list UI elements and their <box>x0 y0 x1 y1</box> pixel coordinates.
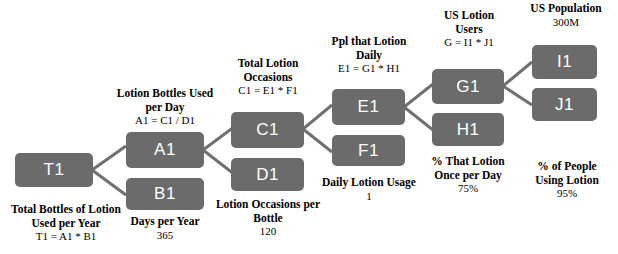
caption-c1-formula: C1 = E1 * F1 <box>221 84 315 97</box>
edge-g1-i1 <box>503 62 532 86</box>
edge-e1-g1 <box>404 84 433 107</box>
caption-b1-value: 365 <box>118 229 212 242</box>
edge-c1-e1 <box>303 105 332 129</box>
caption-g1: US Lotion Users G = I1 * J1 <box>430 9 508 49</box>
node-j1-label: J1 <box>555 95 574 115</box>
node-c1-label: C1 <box>256 120 279 140</box>
caption-c1: Total Lotion Occasions C1 = E1 * F1 <box>221 57 315 97</box>
caption-g1-formula: G = I1 * J1 <box>430 36 508 49</box>
node-b1[interactable]: B1 <box>126 178 204 210</box>
cropped-title-artifact <box>62 0 212 8</box>
caption-d1: Lotion Occasions per Bottle 120 <box>213 198 323 238</box>
caption-a1-formula: A1 = C1 / D1 <box>112 114 218 127</box>
caption-a1-title: Lotion Bottles Used per Day <box>112 87 218 114</box>
node-c1[interactable]: C1 <box>231 112 304 148</box>
caption-d1-value: 120 <box>213 225 323 238</box>
caption-c1-title: Total Lotion Occasions <box>221 57 315 84</box>
caption-e1-title: Ppl that Lotion Daily <box>319 35 419 62</box>
caption-i1: US Population 300M <box>519 2 613 29</box>
node-i1-label: I1 <box>557 52 572 72</box>
node-b1-label: B1 <box>154 184 176 204</box>
node-a1-label: A1 <box>154 140 176 160</box>
caption-e1-formula: E1 = G1 * H1 <box>319 62 419 75</box>
node-t1[interactable]: T1 <box>15 153 93 187</box>
caption-g1-title: US Lotion Users <box>430 9 508 36</box>
caption-f1: Daily Lotion Usage 1 <box>311 176 427 203</box>
node-h1-label: H1 <box>457 120 480 140</box>
edge-t1-a1 <box>92 146 126 170</box>
caption-t1: Total Bottles of Lotion Used per Year T1… <box>2 203 130 243</box>
caption-e1: Ppl that Lotion Daily E1 = G1 * H1 <box>319 35 419 75</box>
caption-a1: Lotion Bottles Used per Day A1 = C1 / D1 <box>112 87 218 127</box>
caption-i1-title: US Population <box>519 2 613 16</box>
edge-g1-j1 <box>503 86 532 105</box>
node-d1[interactable]: D1 <box>231 158 304 191</box>
node-j1[interactable]: J1 <box>532 88 597 121</box>
diagram-canvas: T1 A1 B1 C1 D1 E1 F1 G1 H1 I1 J1 Total B… <box>0 0 618 254</box>
edge-c1-f1 <box>303 129 332 152</box>
caption-t1-title: Total Bottles of Lotion Used per Year <box>2 203 130 230</box>
caption-b1: Days per Year 365 <box>118 215 212 242</box>
caption-t1-formula: T1 = A1 * B1 <box>2 230 130 243</box>
caption-b1-title: Days per Year <box>118 215 212 229</box>
caption-h1-value: 75% <box>420 182 516 195</box>
node-f1[interactable]: F1 <box>332 135 405 166</box>
edge-t1-b1 <box>92 170 126 195</box>
node-g1[interactable]: G1 <box>432 69 504 104</box>
node-g1-label: G1 <box>456 77 480 97</box>
caption-i1-value: 300M <box>519 16 613 29</box>
node-t1-label: T1 <box>44 160 65 180</box>
edge-a1-c1 <box>203 127 234 150</box>
caption-d1-title: Lotion Occasions per Bottle <box>213 198 323 225</box>
caption-j1: % of People Using Lotion 95% <box>523 160 611 200</box>
caption-h1: % That Lotion Once per Day 75% <box>420 155 516 195</box>
node-i1[interactable]: I1 <box>532 45 597 79</box>
edge-a1-d1 <box>203 150 234 174</box>
node-d1-label: D1 <box>256 165 279 185</box>
node-h1[interactable]: H1 <box>432 113 504 146</box>
node-e1-label: E1 <box>358 97 380 117</box>
caption-f1-value: 1 <box>311 190 427 203</box>
caption-j1-title: % of People Using Lotion <box>523 160 611 187</box>
node-f1-label: F1 <box>358 141 379 161</box>
node-a1[interactable]: A1 <box>126 132 204 168</box>
node-e1[interactable]: E1 <box>332 89 405 125</box>
caption-j1-value: 95% <box>523 187 611 200</box>
caption-h1-title: % That Lotion Once per Day <box>420 155 516 182</box>
edge-e1-h1 <box>404 107 433 130</box>
caption-f1-title: Daily Lotion Usage <box>311 176 427 190</box>
